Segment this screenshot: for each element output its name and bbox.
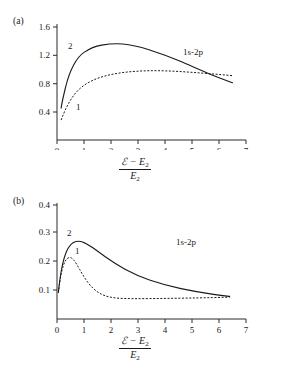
panel-b-curve-tag-1: 1 — [75, 246, 80, 256]
panel-a-curve-tag-2: 2 — [68, 41, 73, 51]
panel-b-xlabel-numerator: ℰ − E — [121, 335, 145, 346]
panel-a-xtick-label-0: 0 — [55, 146, 60, 150]
figure-container: (a) 0.4 0.8 1.2 1.6 0 1 — [0, 0, 282, 377]
panel-a-ytick-label-0: 0.4 — [39, 107, 51, 117]
panel-b-xlabel-denominator-sub: 2 — [136, 354, 140, 362]
panel-b-xlabel-numerator-sub: 2 — [145, 340, 149, 348]
panel-b: (b) 0.1 0.2 0.3 0.4 0 1 — [0, 189, 282, 377]
panel-a-series-label: 1s-2p — [183, 47, 203, 57]
panel-b-xtick-label-1: 1 — [82, 325, 87, 335]
panel-b-ytick-label-1: 0.2 — [39, 256, 50, 266]
panel-a-curve-tag-1: 1 — [76, 102, 81, 112]
panel-b-curve-tag-2: 2 — [67, 228, 72, 238]
panel-a-xtick-label-6: 6 — [217, 146, 222, 150]
panel-a-xlabel-numerator: ℰ − E — [121, 156, 145, 167]
panel-a-ytick-label-1: 0.8 — [39, 79, 51, 89]
panel-b-xaxis-label: ℰ − E2 E2 — [103, 336, 167, 360]
panel-a: (a) 0.4 0.8 1.2 1.6 0 1 — [0, 0, 282, 188]
panel-b-series-label: 1s-2p — [176, 237, 196, 247]
panel-b-xtick-label-0: 0 — [55, 325, 60, 335]
panel-a-ytick-label-3: 1.6 — [39, 22, 51, 32]
panel-a-xtick-label-3: 3 — [136, 146, 141, 150]
panel-a-xtick-label-1: 1 — [82, 146, 87, 150]
panel-b-xtick-label-7: 7 — [244, 325, 249, 335]
panel-b-xtick-label-4: 4 — [163, 325, 168, 335]
panel-b-ytick-label-3: 0.4 — [39, 200, 51, 210]
panel-b-xtick-label-5: 5 — [190, 325, 195, 335]
panel-a-xtick-label-4: 4 — [163, 146, 168, 150]
panel-b-curve-2 — [58, 241, 229, 296]
panel-a-xtick-label-2: 2 — [109, 146, 114, 150]
panel-b-ytick-label-0: 0.1 — [39, 285, 50, 295]
panel-b-xtick-label-2: 2 — [109, 325, 114, 335]
panel-b-ytick-label-2: 0.3 — [39, 227, 51, 237]
panel-a-xlabel-denominator-sub: 2 — [136, 175, 140, 183]
panel-a-plot: 0.4 0.8 1.2 1.6 0 1 2 3 4 5 6 7 2 — [0, 0, 282, 150]
panel-a-xaxis-label: ℰ − E2 E2 — [103, 157, 167, 181]
panel-a-curve-2 — [61, 44, 232, 108]
panel-a-ytick-label-2: 1.2 — [39, 50, 50, 60]
panel-b-xtick-label-6: 6 — [217, 325, 222, 335]
panel-a-curve-1 — [61, 71, 232, 120]
panel-b-plot: 0.1 0.2 0.3 0.4 0 1 2 3 4 5 6 7 2 — [0, 189, 282, 339]
panel-b-xtick-label-3: 3 — [136, 325, 141, 335]
panel-a-xtick-label-7: 7 — [244, 146, 249, 150]
panel-a-xtick-label-5: 5 — [190, 146, 195, 150]
panel-a-xlabel-numerator-sub: 2 — [145, 161, 149, 169]
